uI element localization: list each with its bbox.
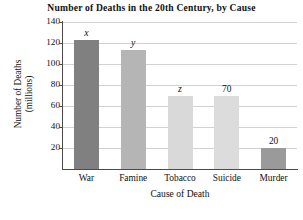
- plot-area: xyz7020: [63, 22, 297, 169]
- x-axis-category-labels: WarFamineTobaccoSuicideMurder: [63, 172, 297, 186]
- y-axis-tick-label: 140: [34, 17, 60, 26]
- bar-tobacco: [168, 96, 193, 170]
- bar-value-label: 70: [205, 84, 249, 94]
- bar-murder: [261, 148, 286, 169]
- y-axis-tick: [59, 148, 63, 149]
- y-axis-tick: [59, 43, 63, 44]
- bar-value-label: x: [64, 28, 108, 38]
- bar-value-label: z: [158, 84, 202, 94]
- y-axis-tick-label: 20: [34, 143, 60, 152]
- y-axis-tick: [59, 127, 63, 128]
- y-axis-tick: [59, 22, 63, 23]
- bar-chart-figure: Number of Deaths in the 20th Century, by…: [0, 0, 303, 220]
- x-axis-category-murder: Murder: [245, 172, 303, 184]
- y-axis-tick-label: 100: [34, 59, 60, 68]
- y-axis-tick-labels: 14012010080604020: [30, 22, 60, 169]
- y-axis-tick-label: 80: [34, 80, 60, 89]
- x-axis-label: Cause of Death: [63, 188, 297, 199]
- y-axis-tick: [59, 106, 63, 107]
- y-axis-tick-label: 60: [34, 101, 60, 110]
- y-axis-tick-label: 120: [34, 38, 60, 47]
- bar-value-label: y: [111, 38, 155, 48]
- gridline: [63, 22, 297, 23]
- y-axis-tick: [59, 64, 63, 65]
- x-axis-line: [62, 169, 298, 170]
- y-axis-tick: [59, 85, 63, 86]
- bar-suicide: [214, 96, 239, 170]
- bar-value-label: 20: [252, 136, 296, 146]
- bar-war: [74, 40, 99, 169]
- y-axis-label-line1: Number of Deaths: [13, 60, 24, 129]
- chart-title: Number of Deaths in the 20th Century, by…: [0, 2, 303, 13]
- y-axis-tick-label: 40: [34, 122, 60, 131]
- bar-famine: [121, 50, 146, 169]
